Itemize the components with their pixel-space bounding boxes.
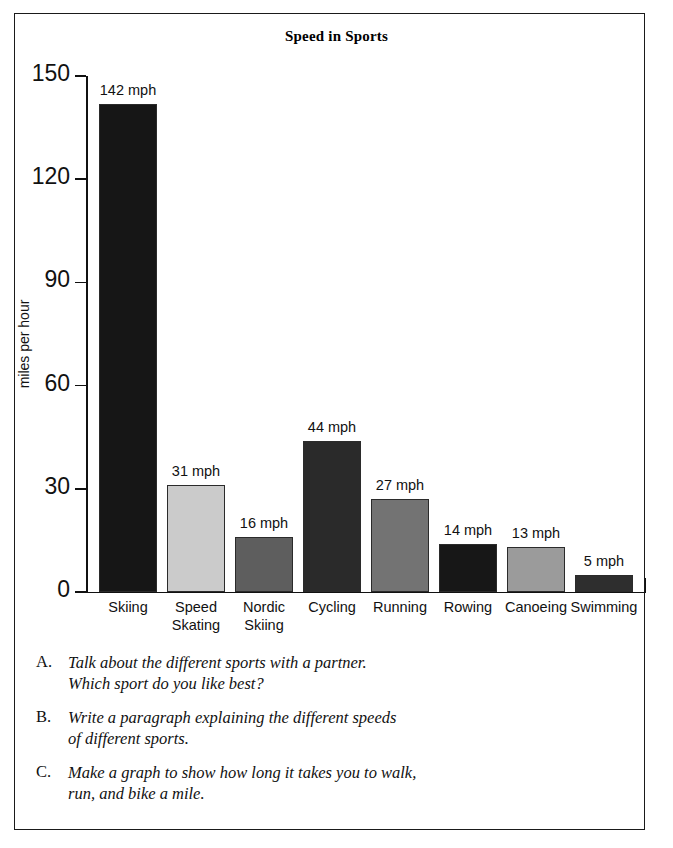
question-item: B.Write a paragraph explaining the diffe… bbox=[36, 707, 636, 749]
bar bbox=[235, 537, 293, 592]
y-axis-title: miles per hour bbox=[16, 284, 32, 404]
bar bbox=[575, 575, 633, 592]
question-item: C.Make a graph to show how long it takes… bbox=[36, 762, 636, 804]
bar bbox=[167, 485, 225, 592]
question-item: A.Talk about the different sports with a… bbox=[36, 652, 636, 694]
bar bbox=[371, 499, 429, 592]
question-text: Talk about the different sports with a p… bbox=[68, 652, 636, 694]
y-axis-tick-label: 0 bbox=[10, 578, 70, 601]
y-axis-tick bbox=[75, 385, 86, 387]
y-axis-line bbox=[86, 76, 88, 593]
question-marker: A. bbox=[36, 652, 64, 672]
x-axis-end-tick bbox=[645, 578, 647, 592]
bar-value-label: 44 mph bbox=[278, 420, 386, 435]
bar bbox=[99, 104, 157, 592]
y-axis-tick bbox=[75, 591, 86, 593]
y-axis-tick bbox=[75, 178, 86, 180]
y-axis-tick bbox=[75, 75, 86, 77]
y-axis-tick-label: 30 bbox=[10, 475, 70, 498]
y-axis-tick-label: 150 bbox=[10, 62, 70, 85]
y-axis-tick bbox=[75, 488, 86, 490]
question-marker: C. bbox=[36, 762, 64, 782]
y-axis-tick bbox=[75, 282, 86, 284]
question-marker: B. bbox=[36, 707, 64, 727]
bar-value-label: 5 mph bbox=[550, 554, 658, 569]
bar-value-label: 31 mph bbox=[142, 464, 250, 479]
bar-chart: 0306090120150 miles per hour 142 mphSkii… bbox=[0, 0, 673, 650]
bar-category-label: Swimming bbox=[563, 598, 645, 616]
y-axis-tick-label: 120 bbox=[10, 165, 70, 188]
bar-value-label: 27 mph bbox=[346, 478, 454, 493]
bar-value-label: 16 mph bbox=[210, 516, 318, 531]
questions-list: A.Talk about the different sports with a… bbox=[36, 652, 636, 817]
bar bbox=[303, 441, 361, 592]
worksheet-page: Speed in Sports 0306090120150 miles per … bbox=[0, 0, 673, 848]
bar bbox=[439, 544, 497, 592]
bar-value-label: 13 mph bbox=[482, 526, 590, 541]
bar-value-label: 142 mph bbox=[74, 83, 182, 98]
question-text: Make a graph to show how long it takes y… bbox=[68, 762, 636, 804]
question-text: Write a paragraph explaining the differe… bbox=[68, 707, 636, 749]
